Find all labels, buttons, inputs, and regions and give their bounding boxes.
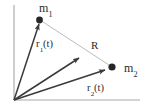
r1-label-suffix: (t) — [43, 38, 53, 49]
r1-label-subscript: 1 — [40, 46, 44, 54]
physics-vector-diagram: m1 m2 r1(t) r2(t) R — [0, 0, 146, 111]
mass2-label: m2 — [124, 62, 137, 78]
r2-label-subscript: 2 — [91, 90, 95, 98]
r2-label-base: r — [87, 82, 91, 93]
r1-vector-label: r1(t) — [36, 39, 53, 52]
mass1-label-subscript: 1 — [49, 10, 53, 19]
mass1-marker — [36, 17, 43, 24]
mass2-marker — [108, 63, 115, 70]
r1-label-base: r — [36, 38, 40, 49]
mass2-label-subscript: 2 — [134, 70, 138, 79]
mass2-label-base: m — [124, 61, 133, 75]
diagram-canvas — [0, 0, 146, 111]
mass1-label: m1 — [39, 2, 52, 18]
R-label-base: R — [91, 39, 98, 51]
R-vector-label: R — [91, 40, 98, 51]
r2-label-suffix: (t) — [94, 82, 104, 93]
mass1-label-base: m — [39, 1, 48, 15]
r2-vector-label: r2(t) — [87, 83, 104, 96]
